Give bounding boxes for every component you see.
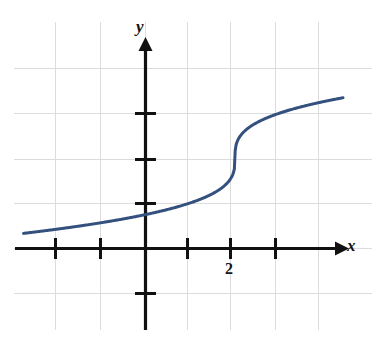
grid-lines	[14, 22, 372, 330]
x-tick-label-2: 2	[225, 261, 233, 277]
y-axis-arrowhead	[139, 37, 153, 51]
axes-group	[15, 37, 349, 330]
graph-figure: y x 2	[0, 0, 382, 348]
function-curve	[24, 98, 344, 234]
y-axis-label: y	[136, 18, 144, 35]
coordinate-plane	[0, 0, 382, 348]
x-axis-label: x	[347, 237, 356, 254]
